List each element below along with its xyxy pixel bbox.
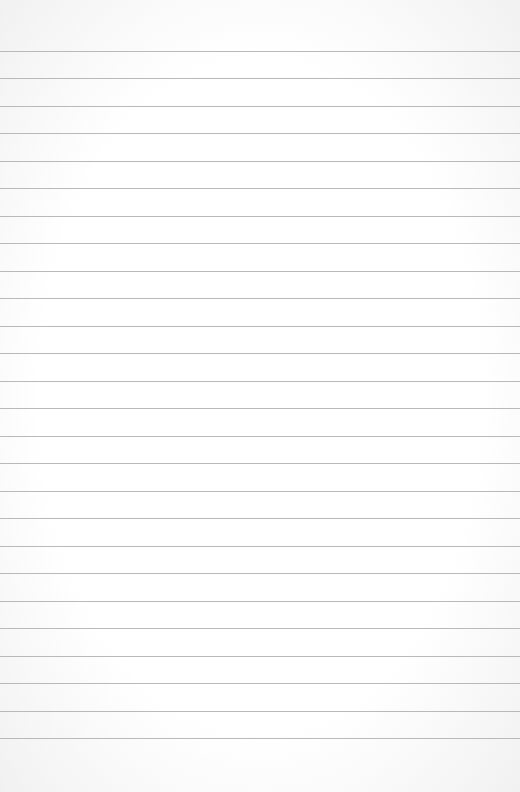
ruled-line [0, 683, 520, 684]
ruled-line [0, 408, 520, 409]
ruled-line [0, 491, 520, 492]
ruled-line [0, 656, 520, 657]
ruled-line [0, 51, 520, 52]
ruled-line [0, 298, 520, 299]
ruled-line [0, 628, 520, 629]
ruled-line [0, 188, 520, 189]
ruled-line [0, 243, 520, 244]
ruled-line [0, 573, 520, 574]
ruled-line [0, 106, 520, 107]
ruled-line [0, 738, 520, 739]
ruled-line [0, 161, 520, 162]
ruled-line [0, 271, 520, 272]
ruled-line [0, 381, 520, 382]
ruled-line [0, 133, 520, 134]
ruled-line [0, 353, 520, 354]
ruled-line [0, 546, 520, 547]
ruled-line [0, 436, 520, 437]
ruled-line [0, 711, 520, 712]
ruled-line [0, 216, 520, 217]
ruled-line [0, 326, 520, 327]
lined-paper-sheet [0, 0, 520, 792]
ruled-line [0, 601, 520, 602]
ruled-line [0, 518, 520, 519]
ruled-line [0, 463, 520, 464]
ruled-line [0, 78, 520, 79]
